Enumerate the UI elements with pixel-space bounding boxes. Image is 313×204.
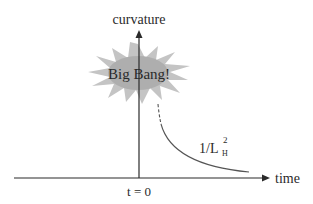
curve-dashed-segment: [158, 104, 161, 124]
y-axis-arrow-icon: [136, 30, 143, 38]
curve-label-base: 1/L: [199, 141, 218, 156]
x-axis-label: time: [275, 171, 300, 186]
x-axis-arrow-icon: [262, 175, 270, 182]
curve-label-superscript: 2: [223, 135, 228, 145]
curvature-diagram: Big Bang! curvature time t = 0 1/L H 2: [0, 0, 313, 204]
curve-label: 1/L H 2: [199, 135, 228, 158]
curve-label-subscript: H: [222, 149, 228, 158]
origin-label: t = 0: [127, 184, 151, 199]
y-axis-label: curvature: [113, 12, 166, 27]
